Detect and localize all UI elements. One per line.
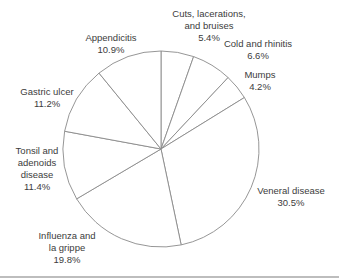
label-appendicitis: Appendicitis 10.9%	[78, 32, 144, 56]
label-gastric: Gastric ulcer 11.2%	[10, 86, 84, 110]
label-mumps: Mumps 4.2%	[230, 69, 290, 93]
label-tonsil: Tonsil and adenoids disease 11.4%	[12, 145, 62, 193]
label-influenza: Influenza and la grippe 19.8%	[32, 230, 102, 266]
label-cold: Cold and rhinitis 6.6%	[208, 38, 308, 62]
label-veneral: Veneral disease 30.5%	[246, 185, 336, 209]
